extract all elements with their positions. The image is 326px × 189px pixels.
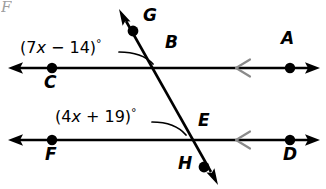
upper-coefficient: 7 — [26, 38, 36, 57]
geometry-figure: F — [0, 0, 326, 189]
point-label-b: B — [165, 34, 178, 51]
point-label-e: E — [198, 112, 210, 129]
lower-degree-symbol: ° — [131, 106, 137, 119]
transversal-bottom-arrowhead — [207, 168, 219, 185]
lower-angle-arc — [152, 122, 186, 135]
lower-coefficient: 4 — [61, 107, 71, 126]
lower-operator: + — [86, 107, 99, 126]
point-label-g: G — [143, 7, 157, 24]
lower-variable: x — [71, 107, 80, 126]
point-dot-a — [285, 63, 295, 73]
angle-expression-upper: (7x − 14)° — [20, 38, 102, 56]
upper-variable: x — [36, 38, 45, 57]
lower-constant: 19 — [105, 107, 125, 126]
angle-expression-lower: (4x + 19)° — [55, 107, 137, 125]
point-label-d: D — [283, 146, 297, 163]
point-dot-h — [199, 162, 210, 173]
point-dot-g — [128, 26, 139, 37]
point-label-f: F — [45, 146, 57, 163]
point-label-c: C — [44, 74, 56, 91]
upper-operator: − — [51, 38, 64, 57]
upper-degree-symbol: ° — [96, 37, 102, 50]
point-label-h: H — [178, 155, 192, 172]
point-label-a: A — [281, 30, 294, 47]
upper-constant: 14 — [70, 38, 90, 57]
